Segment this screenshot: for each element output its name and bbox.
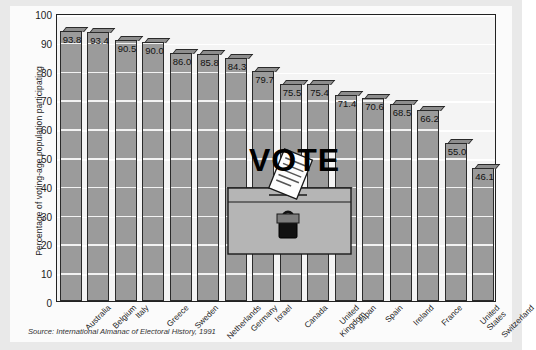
bar-gridline — [446, 273, 466, 275]
bar-gridline — [446, 187, 466, 189]
bar-gridline — [171, 100, 191, 102]
bar-value-label: 84.3 — [228, 61, 247, 72]
bar[interactable] — [115, 40, 137, 301]
y-axis-tick-label: 30 — [16, 211, 52, 222]
bar-gridline — [308, 187, 328, 189]
bar-slot[interactable]: 66.2 — [417, 110, 439, 301]
bar-gridline — [363, 158, 383, 160]
bar-slot[interactable]: 68.5 — [390, 104, 412, 301]
bar[interactable] — [87, 32, 109, 301]
bar[interactable] — [60, 31, 82, 301]
bar-gridline — [61, 216, 81, 218]
x-axis-label: Spain — [384, 304, 405, 325]
x-axis-label: Switzerland — [500, 304, 536, 340]
bar-gridline — [171, 187, 191, 189]
bar-gridline — [116, 187, 136, 189]
bar-slot[interactable]: 75.4 — [307, 84, 329, 301]
bar-value-label: 75.4 — [310, 87, 329, 98]
bar-value-label: 79.7 — [255, 74, 274, 85]
bar-gridline — [143, 158, 163, 160]
bar-gridline — [253, 187, 273, 189]
bar-gridline — [473, 216, 493, 218]
bar-gridline — [281, 187, 301, 189]
bar-gridline — [418, 244, 438, 246]
bar-slot[interactable]: 71.4 — [335, 95, 357, 301]
bar-gridline — [116, 72, 136, 74]
bar[interactable] — [170, 53, 192, 301]
bar[interactable] — [197, 54, 219, 301]
bar-slot[interactable]: 93.4 — [87, 32, 109, 301]
bar[interactable] — [252, 71, 274, 301]
bar-gridline — [281, 100, 301, 102]
bar[interactable] — [142, 42, 164, 301]
bar-gridline — [336, 273, 356, 275]
bar-gridline — [391, 129, 411, 131]
bar-gridline — [446, 244, 466, 246]
bar-value-label: 86.0 — [173, 56, 192, 67]
bar-gridline — [143, 273, 163, 275]
bar-slot[interactable]: 85.8 — [197, 54, 219, 301]
bar-slot[interactable]: 75.5 — [280, 84, 302, 301]
bar-gridline — [281, 216, 301, 218]
bar-gridline — [418, 129, 438, 131]
bar-gridline — [116, 216, 136, 218]
bar-slot[interactable]: 70.6 — [362, 98, 384, 301]
bar[interactable] — [335, 95, 357, 301]
bar-slot[interactable]: 90.0 — [142, 42, 164, 301]
bar[interactable] — [225, 58, 247, 301]
bar-gridline — [418, 216, 438, 218]
bar-gridline — [363, 273, 383, 275]
bar-gridline — [336, 216, 356, 218]
bar-gridline — [308, 158, 328, 160]
bar-gridline — [336, 158, 356, 160]
plot-area: 1009080706050403020100 93.893.490.590.08… — [56, 14, 496, 302]
bar-gridline — [363, 216, 383, 218]
bar-value-label: 85.8 — [200, 57, 219, 68]
y-axis-tick-label: 10 — [16, 269, 52, 280]
bar[interactable] — [307, 84, 329, 301]
bar-gridline — [336, 129, 356, 131]
bar-gridline — [363, 187, 383, 189]
bar[interactable] — [280, 84, 302, 301]
bar-gridline — [198, 216, 218, 218]
bars-layer: 93.893.490.590.086.085.884.379.775.575.4… — [57, 15, 495, 301]
bar-slot[interactable]: 79.7 — [252, 71, 274, 301]
bar-gridline — [391, 244, 411, 246]
x-axis-label: Ireland — [413, 304, 437, 328]
bar[interactable] — [417, 110, 439, 301]
bar-value-label: 46.1 — [475, 171, 494, 182]
bar-value-label: 93.8 — [63, 34, 82, 45]
bar-gridline — [253, 100, 273, 102]
bar[interactable] — [445, 143, 467, 301]
bar-gridline — [253, 129, 273, 131]
bar-gridline — [143, 187, 163, 189]
bar-slot[interactable]: 46.1 — [472, 168, 494, 301]
bar-slot[interactable]: 55.0 — [445, 143, 467, 301]
y-axis-tick-label: 90 — [16, 38, 52, 49]
bar-gridline — [198, 129, 218, 131]
bar-gridline — [226, 244, 246, 246]
bar-gridline — [116, 244, 136, 246]
bar[interactable] — [472, 168, 494, 301]
bar-gridline — [88, 100, 108, 102]
bar-gridline — [198, 187, 218, 189]
bar-slot[interactable]: 84.3 — [225, 58, 247, 301]
bar-gridline — [88, 129, 108, 131]
bar-slot[interactable]: 93.8 — [60, 31, 82, 301]
bar[interactable] — [390, 104, 412, 301]
bar-gridline — [61, 187, 81, 189]
bar-gridline — [143, 129, 163, 131]
bar-gridline — [226, 100, 246, 102]
y-axis-tick-label: 60 — [16, 125, 52, 136]
bar-gridline — [308, 244, 328, 246]
bar-slot[interactable]: 90.5 — [115, 40, 137, 301]
bar-gridline — [473, 187, 493, 189]
bar-gridline — [143, 100, 163, 102]
bar-value-label: 90.0 — [145, 45, 164, 56]
y-axis-tick-label: 40 — [16, 182, 52, 193]
bar-gridline — [198, 273, 218, 275]
bar-slot[interactable]: 86.0 — [170, 53, 192, 301]
bar[interactable] — [362, 98, 384, 301]
chart-inner-page: Percentage of voting-age population part… — [10, 6, 512, 342]
